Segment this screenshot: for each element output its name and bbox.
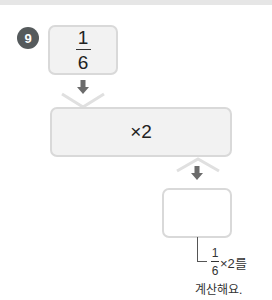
fraction-numerator: 1 <box>78 28 89 49</box>
hint-text: 1 6 ×2를 <box>211 247 247 277</box>
hint-fraction: 1 6 <box>211 247 219 277</box>
hint-suffix: ×2를 <box>220 253 247 272</box>
hint-line2: 계산해요. <box>195 280 242 297</box>
hint-fraction-numerator: 1 <box>212 247 219 261</box>
hint-fraction-denominator: 6 <box>212 262 219 277</box>
answer-box[interactable] <box>162 188 232 238</box>
top-divider <box>0 0 272 5</box>
fraction-denominator: 6 <box>78 50 89 72</box>
operation-box: ×2 <box>50 107 232 157</box>
start-value-box: 1 6 <box>48 25 118 75</box>
chevron-connector-icon <box>60 92 106 108</box>
down-arrow-icon <box>191 166 203 181</box>
problem-number-badge: 9 <box>17 27 39 49</box>
fraction: 1 6 <box>76 28 91 73</box>
operation-label: ×2 <box>130 121 152 143</box>
problem-number: 9 <box>24 31 31 46</box>
hint-pointer-line <box>197 237 207 262</box>
